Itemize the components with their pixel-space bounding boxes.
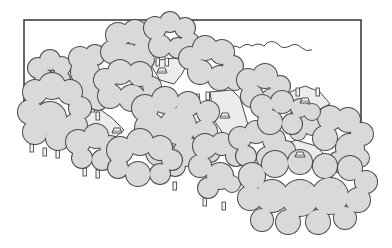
hut-center-icon — [220, 113, 230, 118]
forest-illustration — [0, 0, 392, 248]
trunk-icon — [56, 150, 60, 158]
trunk-icon — [316, 88, 320, 96]
hut-left-mid-icon — [112, 128, 122, 133]
trunk-icon — [156, 58, 160, 66]
trunk-icon — [222, 202, 226, 210]
trunk-icon — [165, 58, 169, 66]
trunk-icon — [30, 144, 34, 152]
trunk-icon — [296, 88, 300, 96]
trunk-icon — [96, 170, 100, 178]
hut-upper-right-icon — [300, 98, 310, 103]
trunk-icon — [43, 148, 47, 156]
trunk-icon — [83, 168, 87, 176]
hut-top-center-icon — [157, 68, 167, 73]
hut-right-lower-icon — [295, 152, 305, 157]
trunk-icon — [96, 112, 100, 120]
trunk-icon — [206, 92, 210, 100]
trunk-icon — [203, 198, 207, 206]
trunk-icon — [173, 182, 177, 190]
